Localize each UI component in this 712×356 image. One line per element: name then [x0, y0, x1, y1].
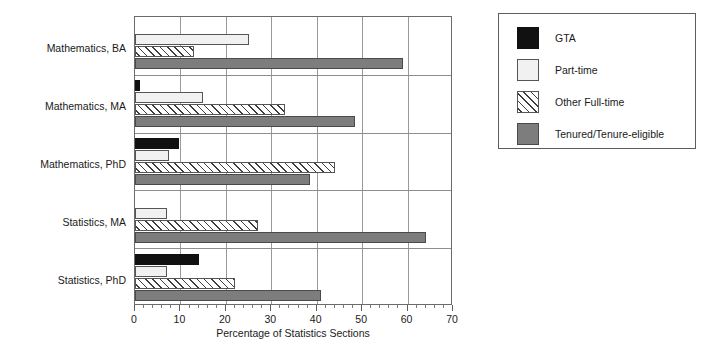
x-tick-label-20: 20	[219, 313, 231, 325]
x-tick-label-0: 0	[131, 313, 137, 325]
y-axis-label-1: Mathematics, MA	[45, 100, 126, 112]
x-tick-major-50	[361, 305, 362, 311]
bar-tenured-group-2	[135, 174, 310, 185]
x-tick-major-0	[134, 305, 135, 311]
bar-tenured-group-4	[135, 290, 321, 301]
gridline-60	[408, 17, 409, 304]
x-tick-major-70	[452, 305, 453, 311]
bar-part-group-0	[135, 34, 249, 45]
x-tick-minor-42	[325, 305, 326, 308]
x-tick-minor-8	[170, 305, 171, 308]
bar-other-group-2	[135, 162, 335, 173]
x-tick-minor-44	[334, 305, 335, 308]
x-tick-minor-4	[152, 305, 153, 308]
x-tick-minor-24	[243, 305, 244, 308]
bar-gta-group-1	[135, 80, 140, 91]
plot-area	[134, 16, 452, 305]
bar-chart-figure: Mathematics, BA Mathematics, MA Mathemat…	[0, 0, 712, 356]
legend-item-other-full-time: Other Full-time	[517, 91, 624, 113]
group-separator-1	[135, 75, 451, 76]
x-tick-minor-64	[425, 305, 426, 308]
legend-item-tenured: Tenured/Tenure-eligible	[517, 123, 664, 145]
x-tick-minor-68	[443, 305, 444, 308]
x-tick-label-70: 70	[446, 313, 458, 325]
bar-gta-group-2	[135, 138, 179, 149]
x-tick-minor-32	[279, 305, 280, 308]
x-tick-label-50: 50	[355, 313, 367, 325]
bar-other-group-3	[135, 220, 258, 231]
x-tick-major-20	[225, 305, 226, 311]
bar-other-group-0	[135, 46, 194, 57]
legend-label-part-time: Part-time	[555, 64, 598, 76]
x-tick-minor-56	[388, 305, 389, 308]
bar-part-group-3	[135, 208, 167, 219]
legend-swatch-tenured	[517, 123, 539, 145]
x-tick-minor-48	[352, 305, 353, 308]
x-tick-minor-34	[288, 305, 289, 308]
x-tick-label-60: 60	[401, 313, 413, 325]
group-separator-4	[135, 248, 451, 249]
x-tick-minor-28	[261, 305, 262, 308]
x-tick-minor-46	[343, 305, 344, 308]
legend-label-tenured: Tenured/Tenure-eligible	[555, 128, 664, 140]
y-axis-label-2: Mathematics, PhD	[40, 158, 126, 170]
x-tick-minor-22	[234, 305, 235, 308]
x-tick-minor-36	[298, 305, 299, 308]
legend-item-part-time: Part-time	[517, 59, 598, 81]
y-axis-label-4: Statistics, PhD	[58, 274, 126, 286]
bar-part-group-4	[135, 266, 167, 277]
bar-part-group-2	[135, 150, 169, 161]
x-tick-major-60	[407, 305, 408, 311]
x-tick-label-10: 10	[174, 313, 186, 325]
legend-swatch-part-time	[517, 59, 539, 81]
x-tick-major-40	[316, 305, 317, 311]
legend-label-gta: GTA	[555, 32, 576, 44]
bar-other-group-4	[135, 278, 235, 289]
x-tick-minor-58	[397, 305, 398, 308]
x-tick-minor-54	[379, 305, 380, 308]
x-tick-minor-12	[189, 305, 190, 308]
y-axis-label-3: Statistics, MA	[62, 216, 126, 228]
bar-other-group-1	[135, 104, 285, 115]
x-tick-minor-14	[198, 305, 199, 308]
x-tick-minor-62	[416, 305, 417, 308]
x-tick-minor-2	[143, 305, 144, 308]
chart-legend: GTA Part-time Other Full-time Tenured/Te…	[498, 13, 696, 149]
x-tick-minor-6	[161, 305, 162, 308]
x-tick-minor-66	[434, 305, 435, 308]
x-tick-minor-16	[207, 305, 208, 308]
legend-swatch-other-full-time	[517, 91, 539, 113]
group-separator-3	[135, 190, 451, 191]
x-tick-label-40: 40	[310, 313, 322, 325]
y-axis-category-labels: Mathematics, BA Mathematics, MA Mathemat…	[0, 16, 126, 305]
legend-item-gta: GTA	[517, 27, 576, 49]
x-tick-minor-18	[216, 305, 217, 308]
bar-tenured-group-0	[135, 58, 403, 69]
bar-tenured-group-3	[135, 232, 426, 243]
plot-inner	[135, 17, 451, 304]
x-tick-label-30: 30	[264, 313, 276, 325]
x-tick-major-10	[179, 305, 180, 311]
x-tick-minor-52	[370, 305, 371, 308]
bar-gta-group-4	[135, 254, 199, 265]
x-tick-major-30	[270, 305, 271, 311]
bar-tenured-group-1	[135, 116, 355, 127]
y-axis-label-0: Mathematics, BA	[47, 42, 126, 54]
x-tick-minor-26	[252, 305, 253, 308]
legend-swatch-gta	[517, 27, 539, 49]
x-axis-title: Percentage of Statistics Sections	[134, 327, 452, 340]
x-tick-minor-38	[307, 305, 308, 308]
bar-part-group-1	[135, 92, 203, 103]
group-separator-2	[135, 133, 451, 134]
legend-label-other-full-time: Other Full-time	[555, 96, 624, 108]
